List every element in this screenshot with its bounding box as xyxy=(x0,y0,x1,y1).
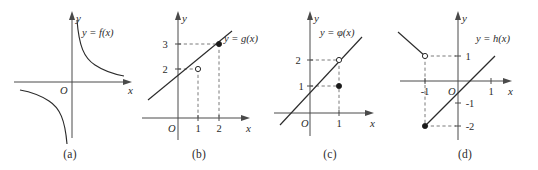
origin-label: O xyxy=(60,85,68,96)
function-label-h: y = h(x) xyxy=(475,33,510,45)
dashed-guides xyxy=(310,60,339,113)
filled-dot-marker xyxy=(422,123,427,128)
x-axis-label: x xyxy=(127,84,133,96)
x-axis-label: x xyxy=(369,117,375,129)
y-axis xyxy=(69,11,75,138)
open-circle-marker xyxy=(336,57,341,62)
line-h-left-branch xyxy=(398,32,425,56)
function-label-phi: y = φ(x) xyxy=(319,27,355,39)
dashed-guides xyxy=(178,44,219,118)
function-label-g: y = g(x) xyxy=(223,33,258,45)
y-axis xyxy=(455,11,461,140)
y-axis-label: y xyxy=(75,12,81,24)
y-axis-label: y xyxy=(181,12,187,24)
x-tick-minus-1: -1 xyxy=(421,86,430,97)
panel-b-plot: 3 2 1 2 x y O y = g(x) xyxy=(134,0,264,148)
graph-panel-b: 3 2 1 2 x y O y = g(x) (b) xyxy=(134,0,264,170)
origin-label: O xyxy=(301,118,309,129)
tick-marks xyxy=(175,44,219,121)
panel-caption-a: (a) xyxy=(0,148,140,160)
open-circle-marker xyxy=(195,66,200,71)
y-axis-label: y xyxy=(461,12,467,24)
x-axis xyxy=(400,78,512,84)
panel-caption-d: (d) xyxy=(392,148,538,160)
y-tick-1: 1 xyxy=(298,81,303,92)
y-tick-3: 3 xyxy=(162,39,167,50)
graph-panel-c: 2 1 1 x y O y = φ(x) (c) xyxy=(268,0,392,170)
panel-caption-c: (c) xyxy=(268,148,392,160)
x-axis xyxy=(14,79,132,85)
curve-branch-quadrant-3 xyxy=(20,90,67,144)
y-tick-minus-1: -1 xyxy=(466,98,475,109)
y-tick-2: 2 xyxy=(162,64,167,75)
open-circle-marker xyxy=(422,53,427,58)
x-tick-1: 1 xyxy=(195,123,200,134)
graph-panel-d: -1 1 1 -1 -2 x y O y = h(x) (d) xyxy=(392,0,538,170)
origin-label: O xyxy=(168,123,176,134)
line-phi xyxy=(280,37,362,125)
graph-panel-a: x y O y = f(x) (a) xyxy=(0,0,140,170)
x-axis xyxy=(142,115,250,121)
figure-four-graph-panels: x y O y = f(x) (a) xyxy=(0,0,538,170)
x-axis-label: x xyxy=(507,85,513,97)
origin-label: O xyxy=(448,86,456,97)
x-tick-2: 2 xyxy=(216,123,221,134)
y-tick-minus-2: -2 xyxy=(466,121,475,132)
y-tick-1: 1 xyxy=(465,51,470,62)
function-label-f: y = f(x) xyxy=(81,27,114,39)
filled-dot-marker xyxy=(216,41,221,46)
y-axis-label: y xyxy=(313,12,319,24)
x-axis-label: x xyxy=(245,122,251,134)
tick-marks xyxy=(307,60,339,116)
x-tick-1: 1 xyxy=(336,118,341,129)
y-tick-2: 2 xyxy=(295,55,300,66)
panel-d-plot: -1 1 1 -1 -2 x y O y = h(x) xyxy=(392,0,538,148)
panel-a-plot: x y O y = f(x) xyxy=(0,0,140,148)
panel-c-plot: 2 1 1 x y O y = φ(x) xyxy=(268,0,392,148)
panel-caption-b: (b) xyxy=(134,148,264,160)
filled-dot-marker xyxy=(336,83,341,88)
line-h-right-branch xyxy=(425,56,495,126)
x-tick-1: 1 xyxy=(488,86,493,97)
